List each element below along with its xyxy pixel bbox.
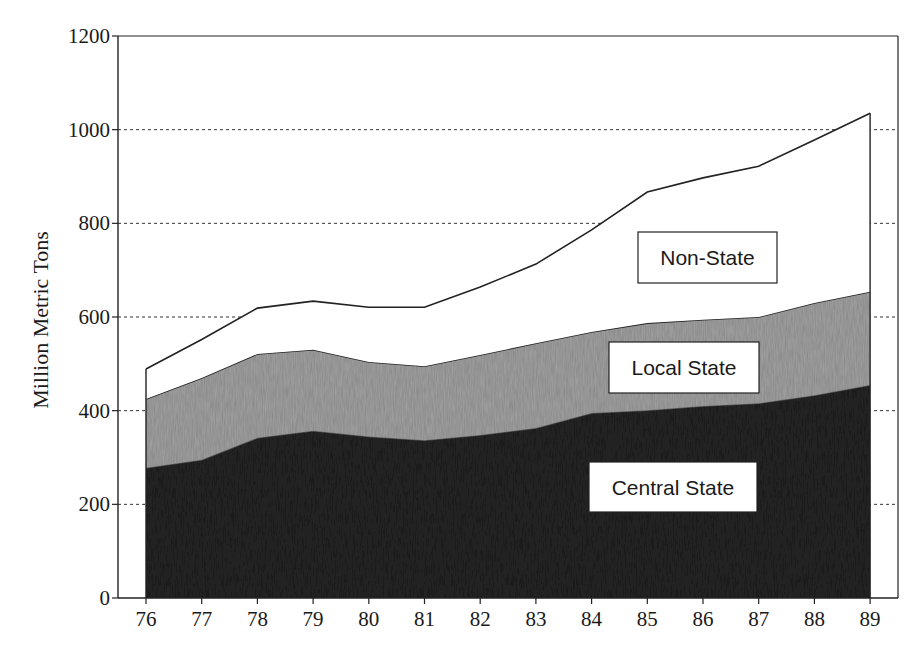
x-tick-label: 84 [581,607,603,631]
y-tick-label: 600 [79,305,111,329]
y-tick-label: 400 [79,399,111,423]
x-tick-label: 86 [693,607,714,631]
y-tick-label: 200 [79,492,111,516]
x-tick-label: 79 [303,607,324,631]
label-local-state: Local State [609,342,759,393]
label-central-state-text: Central State [612,476,735,499]
x-tick-label: 82 [470,607,491,631]
label-non-state-text: Non-State [660,246,755,269]
label-local-state-text: Local State [631,356,736,379]
x-tick-label: 87 [748,607,769,631]
x-tick-label: 80 [358,607,379,631]
x-tick-label: 81 [414,607,435,631]
y-axis-ticks: 020040060080010001200 [68,24,118,610]
y-tick-label: 1200 [68,24,110,48]
y-axis-title: Million Metric Tons [28,231,53,409]
x-tick-label: 77 [191,607,212,631]
stacked-area-chart: 020040060080010001200 767778798081828384… [0,0,924,652]
x-tick-label: 78 [247,607,268,631]
x-tick-label: 85 [637,607,658,631]
y-tick-label: 1000 [68,118,110,142]
x-tick-label: 88 [804,607,825,631]
label-non-state: Non-State [638,232,777,283]
label-central-state: Central State [589,462,757,512]
x-tick-label: 89 [860,607,881,631]
y-tick-label: 0 [100,586,111,610]
x-tick-label: 83 [525,607,546,631]
x-axis-ticks: 7677787980818283848586878889 [136,598,881,631]
x-tick-label: 76 [136,607,157,631]
y-tick-label: 800 [79,211,111,235]
areas [146,113,870,598]
